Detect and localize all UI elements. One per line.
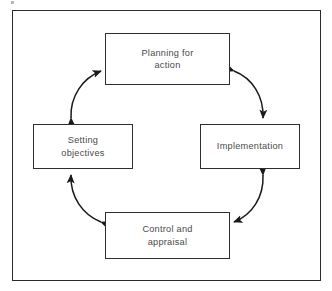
node-setting-objectives[interactable]: Setting objectives	[33, 124, 133, 169]
node-implementation-label: Implementation	[213, 140, 287, 153]
node-implementation[interactable]: Implementation	[200, 124, 300, 169]
node-control-and-appraisal[interactable]: Control and appraisal	[105, 212, 230, 259]
node-setting-objectives-label: Setting objectives	[57, 134, 108, 159]
figure-root: Planning for action Setting objectives I…	[0, 0, 332, 291]
scan-artifact-speck	[11, 1, 14, 4]
node-planning-for-action[interactable]: Planning for action	[105, 33, 230, 85]
node-control-and-appraisal-label: Control and appraisal	[138, 223, 196, 248]
node-planning-for-action-label: Planning for action	[137, 47, 197, 72]
